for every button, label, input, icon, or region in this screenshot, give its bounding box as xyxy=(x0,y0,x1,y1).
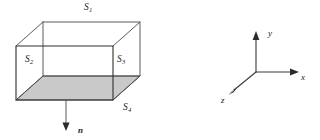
figure-container: S1 S2 S3 S4 n y x z xyxy=(0,0,320,140)
box-edge-top-right-receding xyxy=(113,22,140,46)
y-axis-arrowhead xyxy=(253,31,260,40)
coordinate-axes-group xyxy=(228,31,299,95)
z-axis-arrowhead xyxy=(228,86,236,95)
shaded-bottom-face xyxy=(16,76,140,100)
y-axis-label: y xyxy=(268,29,272,38)
box-edge-top-left-receding xyxy=(16,22,43,46)
face-label-s2: S2 xyxy=(25,55,33,65)
face-label-s3: S3 xyxy=(117,55,125,65)
face-label-s4: S4 xyxy=(123,103,131,113)
normal-vector-group xyxy=(62,100,69,131)
x-axis-arrowhead xyxy=(290,69,299,76)
figure-drawing xyxy=(0,0,320,140)
box-back-face-edges xyxy=(43,22,140,76)
face-label-s1: S1 xyxy=(84,3,92,13)
normal-vector-label: n xyxy=(78,126,83,135)
normal-vector-arrowhead xyxy=(62,123,69,132)
z-axis-label: z xyxy=(221,96,225,105)
z-axis-shaft xyxy=(234,72,256,90)
x-axis-label: x xyxy=(301,73,305,82)
